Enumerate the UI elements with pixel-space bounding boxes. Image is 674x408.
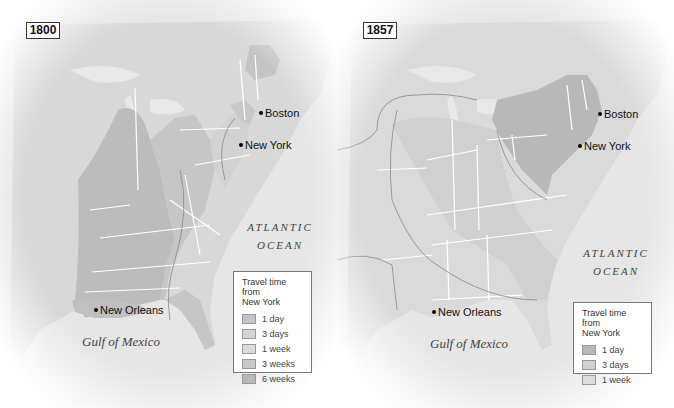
legend-title: Travel time from New York bbox=[242, 277, 303, 307]
legend-swatch bbox=[242, 314, 256, 324]
legend-swatch bbox=[242, 374, 256, 384]
year-label: 1800 bbox=[26, 22, 60, 39]
legend-item-1-week: 1 week bbox=[582, 372, 643, 387]
legend-swatch bbox=[582, 360, 596, 370]
city-new-york: New York bbox=[578, 140, 630, 152]
legend-item-3-days: 3 days bbox=[242, 326, 303, 341]
legend-1800: Travel time from New York 1 day 3 days 1… bbox=[233, 271, 312, 373]
city-new-york: New York bbox=[239, 139, 291, 151]
city-new-orleans: New Orleans bbox=[94, 304, 164, 316]
legend-item-3-days: 3 days bbox=[582, 357, 643, 372]
year-label: 1857 bbox=[363, 22, 397, 39]
legend-item-1-week: 1 week bbox=[242, 341, 303, 356]
city-new-orleans: New Orleans bbox=[432, 306, 502, 318]
city-boston: Boston bbox=[259, 107, 299, 119]
legend-item-1-day: 1 day bbox=[582, 342, 643, 357]
city-dot-icon bbox=[578, 144, 582, 148]
legend-item-6-weeks: 6 weeks bbox=[242, 371, 303, 386]
gulf-label: Gulf of Mexico bbox=[430, 336, 508, 352]
legend-item-1-day: 1 day bbox=[242, 311, 303, 326]
map-panel-1857: 1857 Boston New York New Orleans ATLANTI… bbox=[337, 0, 674, 408]
legend-swatch bbox=[582, 345, 596, 355]
city-dot-icon bbox=[432, 310, 436, 314]
city-dot-icon bbox=[239, 143, 243, 147]
ocean-label: ATLANTIC OCEAN bbox=[575, 244, 657, 280]
legend-item-3-weeks: 3 weeks bbox=[242, 356, 303, 371]
map-panel-1800: 1800 Boston New York New Orleans ATLANTI… bbox=[0, 0, 337, 408]
ocean-label: ATLANTIC OCEAN bbox=[240, 218, 320, 254]
city-boston: Boston bbox=[598, 108, 638, 120]
legend-swatch bbox=[242, 344, 256, 354]
city-dot-icon bbox=[259, 111, 263, 115]
legend-title: Travel time from New York bbox=[582, 308, 643, 338]
city-dot-icon bbox=[598, 112, 602, 116]
legend-swatch bbox=[242, 359, 256, 369]
legend-swatch bbox=[582, 375, 596, 385]
legend-1857: Travel time from New York 1 day 3 days 1… bbox=[573, 302, 652, 374]
gulf-label: Gulf of Mexico bbox=[82, 334, 160, 350]
legend-swatch bbox=[242, 329, 256, 339]
city-dot-icon bbox=[94, 308, 98, 312]
